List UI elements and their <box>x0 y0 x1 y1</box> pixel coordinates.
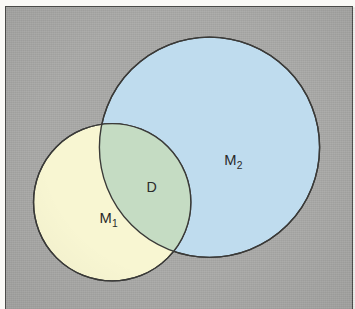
venn-figure: M1 M2 D <box>0 0 355 309</box>
set-label-m2-subscript: 2 <box>237 160 243 171</box>
set-label-m2-text: M <box>224 152 236 168</box>
venn-svg: M1 M2 D <box>6 7 355 309</box>
set-label-m1-text: M <box>99 210 111 226</box>
diagram-field: M1 M2 D <box>6 7 355 309</box>
intersection-label-d: D <box>147 179 157 195</box>
set-label-m1-subscript: 1 <box>112 218 118 229</box>
